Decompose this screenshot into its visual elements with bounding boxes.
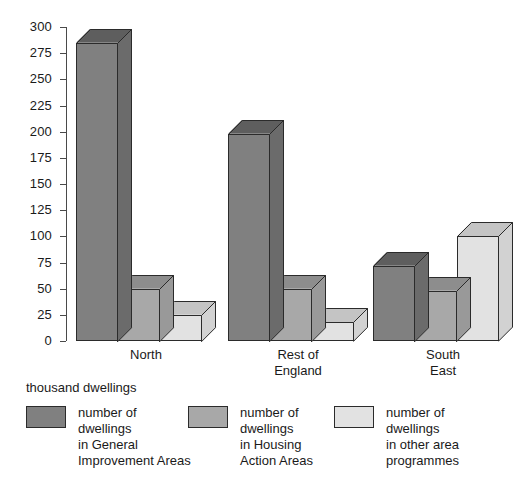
y-tick-mark — [60, 158, 66, 159]
chart-legend: thousand dwellings number of dwellings i… — [0, 372, 480, 484]
legend-item-1[interactable]: number of dwellings in General Improveme… — [26, 405, 191, 469]
y-axis-line — [66, 27, 67, 341]
legend-item-2[interactable]: number of dwellings in Housing Action Ar… — [188, 405, 313, 469]
legend-label-3: number of dwellings in other area progra… — [386, 405, 459, 469]
y-tick-mark — [60, 341, 66, 342]
y-tick-label: 275 — [18, 46, 52, 59]
bar-side-face — [498, 222, 514, 343]
legend-swatch-1 — [26, 406, 66, 428]
y-tick-label: 125 — [18, 203, 52, 216]
y-tick-label: 300 — [18, 20, 52, 33]
y-tick-mark — [60, 132, 66, 133]
bar-1-group-3[interactable] — [373, 0, 429, 341]
bar-side-face — [269, 120, 285, 343]
y-tick-mark — [60, 289, 66, 290]
bar-front-face — [373, 266, 415, 341]
y-tick-label: 150 — [18, 177, 52, 190]
y-tick-label: 200 — [18, 125, 52, 138]
y-tick-mark — [60, 184, 66, 185]
y-tick-mark — [60, 106, 66, 107]
bar-1-group-2[interactable] — [228, 0, 284, 341]
legend-swatch-3 — [334, 406, 374, 428]
y-tick-mark — [60, 27, 66, 28]
y-tick-mark — [60, 79, 66, 80]
bar-side-face — [201, 301, 217, 343]
y-tick-mark — [60, 53, 66, 54]
y-tick-label: 225 — [18, 99, 52, 112]
y-tick-mark — [60, 236, 66, 237]
legend-label-1: number of dwellings in General Improveme… — [78, 405, 191, 469]
legend-label-2: number of dwellings in Housing Action Ar… — [240, 405, 313, 469]
bar-1-group-1[interactable] — [76, 0, 132, 341]
bar-front-face — [76, 43, 118, 341]
y-tick-label: 250 — [18, 72, 52, 85]
y-tick-mark — [60, 263, 66, 264]
plot-area: 0255075100125150175200225250275300 North… — [0, 0, 480, 372]
legend-swatch-2 — [188, 406, 228, 428]
bar-side-face — [159, 275, 175, 343]
y-tick-label: 25 — [18, 308, 52, 321]
y-tick-label: 75 — [18, 256, 52, 269]
bar-side-face — [414, 252, 430, 343]
category-label-1: North — [76, 347, 216, 363]
legend-item-3[interactable]: number of dwellings in other area progra… — [334, 405, 459, 469]
y-tick-label: 175 — [18, 151, 52, 164]
bar-side-face — [117, 29, 133, 343]
bar-side-face — [456, 277, 472, 343]
y-tick-label: 50 — [18, 282, 52, 295]
bar-side-face — [353, 308, 369, 343]
y-tick-mark — [60, 210, 66, 211]
y-axis-units-label: thousand dwellings — [26, 380, 137, 395]
bar-side-face — [311, 275, 327, 343]
y-tick-mark — [60, 315, 66, 316]
bar-front-face — [228, 134, 270, 341]
y-tick-label: 100 — [18, 229, 52, 242]
y-tick-label: 0 — [18, 334, 52, 347]
